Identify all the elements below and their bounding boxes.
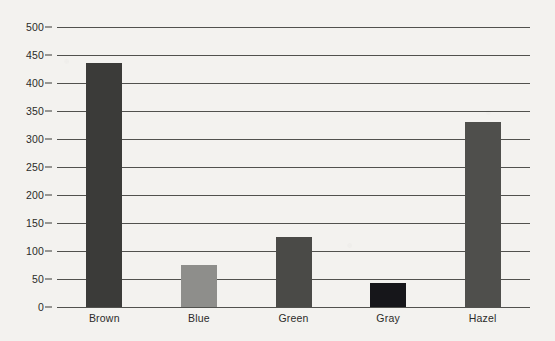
y-axis-tick-label: 0 — [38, 301, 44, 313]
bar-slot — [370, 27, 406, 307]
x-axis-label-hazel: Hazel — [469, 312, 497, 324]
y-axis-tick — [45, 139, 52, 140]
y-axis-tick-label: 300 — [26, 133, 44, 145]
bar-slot — [86, 27, 122, 307]
y-axis-tick-label: 500 — [26, 21, 44, 33]
bar-slot — [465, 27, 501, 307]
bar-series — [57, 27, 530, 307]
y-axis-tick — [45, 83, 52, 84]
y-axis-tick — [45, 195, 52, 196]
y-axis-tick — [45, 223, 52, 224]
x-axis: BrownBlueGreenGrayHazel — [57, 312, 530, 332]
x-axis-label-gray: Gray — [376, 312, 400, 324]
y-axis-tick-label: 200 — [26, 189, 44, 201]
y-axis-tick — [45, 167, 52, 168]
bar-brown — [86, 63, 122, 307]
y-axis: 050100150200250300350400450500 — [0, 27, 52, 307]
plot-area — [57, 27, 530, 307]
bar-gray — [370, 283, 406, 307]
bar-blue — [181, 265, 217, 307]
y-axis-tick-label: 400 — [26, 77, 44, 89]
bar-chart: 050100150200250300350400450500 BrownBlue… — [0, 0, 555, 341]
y-axis-tick-label: 450 — [26, 49, 44, 61]
y-axis-tick — [45, 55, 52, 56]
gridline — [57, 307, 530, 308]
bar-slot — [276, 27, 312, 307]
y-axis-tick-label: 150 — [26, 217, 44, 229]
y-axis-tick — [45, 307, 52, 308]
y-axis-tick-label: 350 — [26, 105, 44, 117]
y-axis-tick — [45, 251, 52, 252]
x-axis-label-brown: Brown — [89, 312, 120, 324]
bar-green — [276, 237, 312, 307]
y-axis-tick — [45, 111, 52, 112]
y-axis-tick — [45, 27, 52, 28]
x-axis-label-blue: Blue — [188, 312, 210, 324]
x-axis-label-green: Green — [278, 312, 308, 324]
y-axis-tick-label: 250 — [26, 161, 44, 173]
bar-hazel — [465, 122, 501, 307]
y-axis-tick — [45, 279, 52, 280]
y-axis-tick-label: 100 — [26, 245, 44, 257]
bar-slot — [181, 27, 217, 307]
y-axis-tick-label: 50 — [32, 273, 44, 285]
